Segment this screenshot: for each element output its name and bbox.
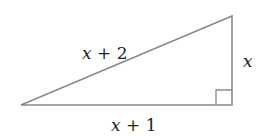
hypotenuse-var: x xyxy=(82,43,92,63)
vertical-leg-label: x xyxy=(243,51,253,71)
horizontal-leg-label: x + 1 xyxy=(111,115,156,135)
horizontal-leg-var: x xyxy=(111,115,121,135)
vertical-leg-var: x xyxy=(243,51,253,71)
right-angle-marker xyxy=(216,90,232,105)
hypotenuse-rest: + 2 xyxy=(92,43,128,63)
horizontal-leg-rest: + 1 xyxy=(121,115,157,135)
triangle-diagram: x + 2 x x + 1 xyxy=(0,0,272,137)
hypotenuse-label: x + 2 xyxy=(82,43,127,63)
